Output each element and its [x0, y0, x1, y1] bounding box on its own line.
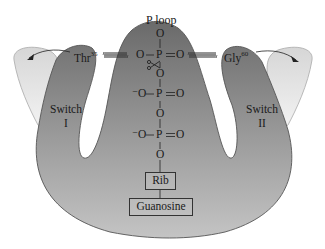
switch-2-label: Switch II	[243, 102, 281, 130]
gamma-right-oxygen: O	[176, 49, 184, 61]
guanosine-box: Guanosine	[129, 198, 193, 216]
beta-right-oxygen: O	[176, 88, 184, 100]
alpha-left-oxygen: ⁻O	[132, 129, 146, 141]
switch-2-line1: Switch	[243, 102, 281, 116]
ribose-box: Rib	[145, 172, 176, 190]
switch-2-line2: II	[243, 116, 281, 130]
beta-left-oxygen: ⁻O	[132, 88, 146, 100]
bridge-oxygen-2: O	[156, 108, 164, 120]
thr-name: Thr	[74, 52, 91, 64]
gamma-left-oxygen: O	[136, 49, 144, 61]
gamma-top-oxygen: O	[156, 28, 164, 40]
thr35-label: Thr35	[74, 51, 98, 65]
bridge-oxygen-1: O	[156, 68, 164, 80]
alpha-phosphorus: P	[156, 129, 162, 141]
gly-number: 60	[241, 50, 248, 58]
p-loop-label: P loop	[146, 14, 177, 26]
thr-number: 35	[91, 50, 98, 58]
beta-phosphorus: P	[156, 88, 162, 100]
switch-1-line2: I	[47, 116, 85, 130]
switch-1-label: Switch I	[47, 102, 85, 130]
gly60-label: Gly60	[224, 51, 248, 65]
gamma-phosphorus: P	[156, 49, 162, 61]
alpha-right-oxygen: O	[176, 129, 184, 141]
switch-1-line1: Switch	[47, 102, 85, 116]
bridge-oxygen-3: O	[156, 149, 164, 161]
gly-name: Gly	[224, 52, 241, 64]
